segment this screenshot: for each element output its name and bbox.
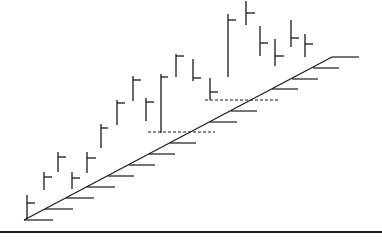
- diagonal-line: [24, 57, 359, 220]
- diagonal-ticks: [24, 68, 339, 220]
- bar-glyphs: [27, 1, 313, 219]
- dashed-guides: [148, 100, 278, 132]
- diagram-canvas: [0, 0, 382, 242]
- diagonal-segment: [24, 57, 332, 220]
